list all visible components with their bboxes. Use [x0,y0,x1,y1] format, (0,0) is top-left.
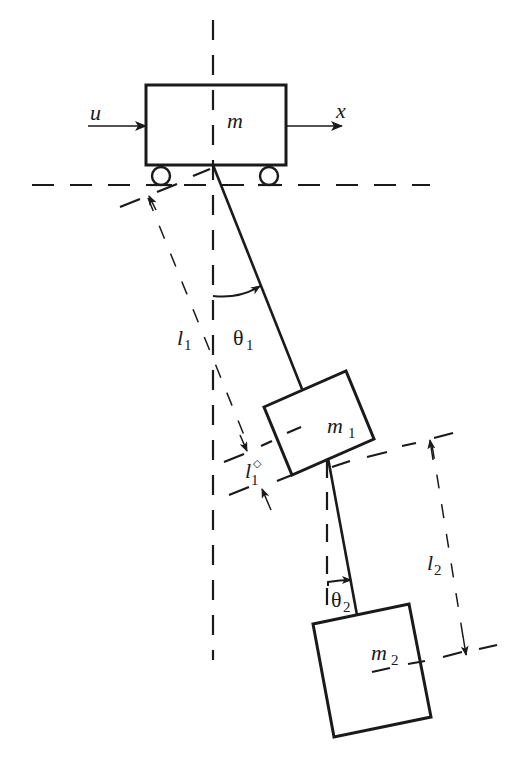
mass-1-label: m 1 [327,413,356,441]
svg-text:m: m [371,640,387,665]
mass-1-center-tick [287,427,301,433]
length-1-offset-tick-c [229,487,249,495]
svg-text:◇: ◇ [253,457,262,470]
angle-arc-1 [213,286,260,297]
svg-text:1: 1 [348,425,356,441]
svg-text:l: l [177,325,183,350]
length-1-dimension-line [148,198,246,440]
length-2-tick-bottom-d [479,645,497,649]
length-1-label: l 1 [177,325,192,353]
svg-text:m: m [327,413,343,438]
length-2-tick-top-a [332,461,350,467]
pendulum-link-1 [213,165,302,389]
length-1-offset-tick-b [261,441,272,446]
length-1-offset-arrow-top [240,435,247,451]
cart-body [146,85,286,165]
length-2-tick-bottom-b [408,661,425,664]
length-2-dimension-line [432,445,466,655]
length-1-offset-label: l 1 ◇ [245,457,262,488]
length-1-offset-arrow-bottom [262,489,271,510]
length-1-tick-top-c [193,169,210,176]
svg-text:l: l [427,550,433,575]
length-2-tick-top-d [434,433,453,438]
length-1-offset-tick-d [277,475,292,481]
length-1-offset-tick-a [224,454,244,462]
cart-wheel-right [260,167,278,185]
length-2-tick-bottom-c [443,652,462,657]
cart-wheel-left [152,167,170,185]
length-2-label: l 2 [427,550,442,578]
length-2-tick-top-c [402,443,416,446]
svg-text:1: 1 [184,337,192,353]
force-label: u [90,100,101,125]
cart-mass-label: m [227,108,243,133]
angle-arc-2 [328,580,351,586]
angle-label-1: θ 1 [233,325,254,353]
length-1-tick-top-a [120,199,140,207]
svg-text:2: 2 [434,562,442,578]
svg-text:θ: θ [331,587,342,612]
svg-text:1: 1 [246,337,254,353]
mass-2-label: m 2 [371,640,399,668]
length-2-tick-top-b [367,452,387,457]
svg-text:2: 2 [343,599,351,615]
length-2-arrow-bottom [463,636,466,655]
angle-label-2: θ 2 [331,587,351,615]
svg-text:θ: θ [233,325,244,350]
length-2-tick-bottom-a [372,668,390,672]
mass-1-box [264,371,374,475]
svg-text:1: 1 [251,472,259,488]
svg-text:2: 2 [391,652,399,668]
position-label: x [335,98,346,123]
double-inverted-pendulum-diagram: u x m θ 1 m 1 l 1 l 1 ◇ θ 2 [0,0,525,762]
mass-2-box [313,604,431,737]
